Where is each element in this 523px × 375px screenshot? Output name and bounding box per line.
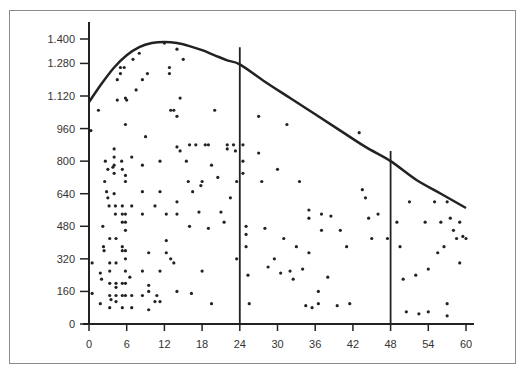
data-point (417, 312, 420, 315)
data-point (241, 143, 244, 146)
y-tick-label: 1.120 (47, 90, 75, 102)
data-point (131, 58, 134, 61)
scatter-points (89, 41, 467, 317)
data-point (158, 300, 161, 303)
data-point (298, 180, 301, 183)
data-point (197, 210, 200, 213)
data-point (169, 109, 172, 112)
data-point (282, 237, 285, 240)
scatter-chart: 01603204806408009601.1201.2801.400 06121… (0, 0, 523, 375)
data-point (130, 155, 133, 158)
data-point (336, 304, 339, 307)
data-point (114, 300, 117, 303)
data-point (226, 143, 229, 146)
data-point (175, 115, 178, 118)
data-point (234, 149, 237, 152)
data-point (175, 212, 178, 215)
data-point (121, 245, 124, 248)
data-point (114, 286, 117, 289)
data-point (367, 217, 370, 220)
data-point (246, 274, 249, 277)
data-point (229, 196, 232, 199)
data-point (147, 251, 150, 254)
data-point (121, 282, 124, 285)
data-point (108, 269, 111, 272)
data-point (144, 135, 147, 138)
data-point (358, 131, 361, 134)
y-ticks: 01603204806408009601.1201.2801.400 (47, 33, 89, 330)
data-point (376, 212, 379, 215)
data-point (226, 147, 229, 150)
data-point (449, 217, 452, 220)
data-point (304, 304, 307, 307)
data-point (414, 274, 417, 277)
data-point (104, 160, 107, 163)
data-point (241, 172, 244, 175)
data-point (370, 237, 373, 240)
data-point (114, 294, 117, 297)
data-point (364, 196, 367, 199)
data-point (219, 210, 222, 213)
data-point (147, 308, 150, 311)
data-point (114, 261, 117, 264)
data-point (120, 160, 123, 163)
x-tick-label: 54 (422, 338, 434, 350)
data-point (172, 261, 175, 264)
data-point (124, 269, 127, 272)
data-point (114, 237, 117, 240)
data-point (461, 235, 464, 238)
data-point (147, 290, 150, 293)
data-point (191, 190, 194, 193)
data-point (141, 212, 144, 215)
data-point (108, 306, 111, 309)
data-point (266, 265, 269, 268)
data-point (146, 72, 149, 75)
data-point (320, 229, 323, 232)
data-point (402, 278, 405, 281)
data-point (124, 212, 127, 215)
data-point (433, 200, 436, 203)
data-point (108, 237, 111, 240)
data-point (113, 147, 116, 150)
data-point (124, 180, 127, 183)
y-tick-label: 480 (57, 220, 75, 232)
data-point (113, 192, 116, 195)
data-point (232, 143, 235, 146)
data-point (194, 143, 197, 146)
data-point (339, 229, 342, 232)
data-point (102, 245, 105, 248)
data-point (276, 168, 279, 171)
data-point (165, 239, 168, 242)
data-point (446, 200, 449, 203)
data-point (320, 212, 323, 215)
y-tick-label: 800 (57, 155, 75, 167)
data-point (288, 269, 291, 272)
data-point (190, 292, 193, 295)
axes (83, 22, 474, 324)
data-point (124, 229, 127, 232)
x-tick-label: 36 (309, 338, 321, 350)
data-point (260, 180, 263, 183)
data-point (285, 123, 288, 126)
data-point (458, 261, 461, 264)
data-point (130, 294, 133, 297)
data-point (175, 200, 178, 203)
data-point (187, 180, 190, 183)
data-point (244, 225, 247, 228)
data-point (121, 204, 124, 207)
data-point (201, 269, 204, 272)
data-point (244, 233, 247, 236)
data-point (241, 160, 244, 163)
envelope-curve (89, 42, 466, 208)
x-ticks: 06121824303642485460 (86, 324, 472, 350)
data-point (301, 267, 304, 270)
data-point (446, 302, 449, 305)
data-point (307, 217, 310, 220)
data-point (386, 237, 389, 240)
data-point (175, 48, 178, 51)
data-point (175, 290, 178, 293)
data-point (130, 204, 133, 207)
data-point (121, 294, 124, 297)
data-point (317, 290, 320, 293)
data-point (446, 314, 449, 317)
